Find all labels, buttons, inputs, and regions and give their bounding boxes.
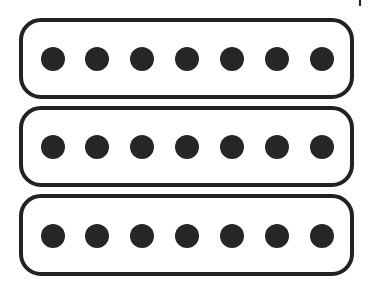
pole-piece-icon — [265, 47, 289, 71]
pole-piece-icon — [175, 47, 199, 71]
pole-piece-icon — [220, 224, 244, 248]
pickup-diagram — [0, 0, 374, 299]
pole-piece-icon — [85, 135, 109, 159]
pole-piece-icon — [41, 135, 65, 159]
pole-piece-icon — [41, 47, 65, 71]
pickup-2 — [21, 108, 352, 185]
pole-piece-icon — [41, 224, 65, 248]
pole-piece-icon — [85, 224, 109, 248]
pole-piece-icon — [130, 135, 154, 159]
pole-piece-icon — [175, 224, 199, 248]
pole-piece-icon — [85, 47, 109, 71]
pickup-1 — [21, 20, 352, 97]
corner-mark — [359, 0, 361, 6]
pole-piece-icon — [310, 224, 334, 248]
pickup-3 — [21, 196, 352, 274]
pole-piece-icon — [310, 135, 334, 159]
pole-piece-icon — [310, 47, 334, 71]
pole-piece-icon — [220, 135, 244, 159]
pole-piece-icon — [265, 135, 289, 159]
pole-piece-icon — [220, 47, 244, 71]
pole-piece-icon — [130, 47, 154, 71]
pole-piece-icon — [175, 135, 199, 159]
pole-piece-icon — [130, 224, 154, 248]
pole-piece-icon — [265, 224, 289, 248]
